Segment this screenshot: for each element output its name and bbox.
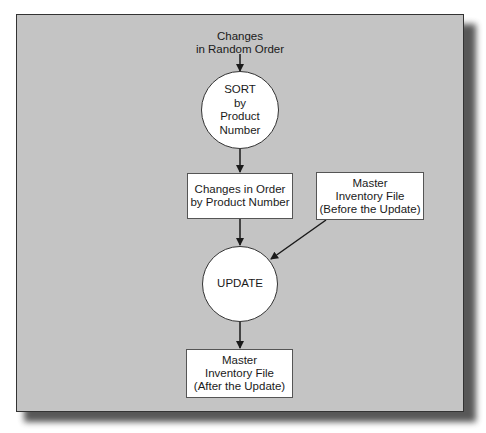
master-before-line1: Master [352, 177, 387, 190]
arrow-master-to-update [271, 220, 326, 259]
update-label: UPDATE [217, 277, 263, 291]
sort-line4: Number [220, 124, 261, 138]
sort-process-node: SORT by Product Number [201, 71, 279, 149]
sort-line3: Product [220, 110, 260, 124]
sorted-line2: by Product Number [190, 196, 289, 209]
master-before-line2: Inventory File [335, 190, 404, 203]
sorted-changes-file: Changes in Order by Product Number [187, 173, 293, 219]
sorted-line1: Changes in Order [195, 183, 286, 196]
master-after-file: Master Inventory File (After the Update) [186, 349, 293, 398]
master-before-file: Master Inventory File (Before the Update… [316, 172, 424, 220]
update-process-node: UPDATE [202, 246, 278, 322]
master-after-line2: Inventory File [205, 367, 274, 380]
sort-line1: SORT [224, 83, 256, 97]
input-label: Changes in Random Order [180, 30, 300, 56]
master-after-line1: Master [222, 354, 257, 367]
input-label-line1: Changes [180, 30, 300, 43]
input-label-line2: in Random Order [180, 43, 300, 56]
master-after-line3: (After the Update) [194, 380, 285, 393]
master-before-line3: (Before the Update) [319, 203, 420, 216]
sort-line2: by [234, 97, 246, 111]
